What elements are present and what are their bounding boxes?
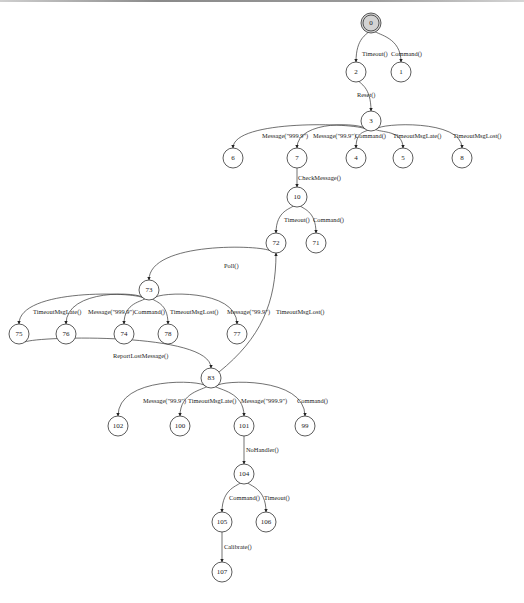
state-node-3: 3 [361,111,381,131]
state-label: 7 [295,154,299,162]
state-node-78: 78 [158,324,178,344]
state-label: 10 [294,193,302,201]
state-label: 101 [239,422,250,430]
edge-3-to-4: Command() [355,129,386,148]
edge-0-to-1: Command() [374,31,422,62]
state-label: 99 [302,422,310,430]
state-node-99: 99 [295,416,315,436]
state-label: 8 [460,154,464,162]
edge-7-to-10: CheckMessage() [297,168,341,187]
state-node-75: 75 [9,324,29,344]
edge-label: Command() [297,397,328,405]
edge-72-to-73: Poll() [149,247,270,280]
state-label: 107 [217,568,228,576]
edges-layer: Timeout()Command()Reset()Message("999.9"… [19,31,501,562]
state-label: 2 [354,68,358,76]
state-node-74: 74 [114,324,134,344]
edge-label: Message("999.9") [88,308,134,316]
state-node-77: 77 [227,324,247,344]
state-node-7: 7 [287,148,307,168]
state-node-76: 76 [56,324,76,344]
edge-label: Timeout() [284,216,310,224]
state-label: 74 [121,330,129,338]
edge-label: Command() [313,216,344,224]
state-label: 0 [369,19,373,27]
state-label: 105 [217,518,228,526]
edge-arrow [374,31,401,62]
edge-label: Message("99.9") [227,308,270,316]
edge-2-to-3: Reset() [357,80,375,111]
state-label: 75 [16,330,24,338]
state-label: 106 [261,518,272,526]
state-node-0: 0 [361,13,381,33]
state-node-106: 106 [256,512,276,532]
edge-label: TimeoutMsgLate() [33,308,81,316]
state-label: 71 [313,239,321,247]
state-label: 102 [113,422,124,430]
state-label: 76 [63,330,71,338]
state-node-2: 2 [346,62,366,82]
edge-label: Timeout() [362,50,388,58]
edge-label: TimeoutMsgLost() [170,308,218,316]
edge-label: TimeoutMsgLost() [453,132,501,140]
state-label: 6 [231,154,235,162]
edge-arrow [149,247,270,280]
state-label: 100 [175,422,186,430]
state-label: 72 [273,239,281,247]
state-label: 4 [354,154,358,162]
edge-label: CheckMessage() [298,174,341,182]
state-label: 78 [165,330,173,338]
edge-label: Reset() [357,91,375,99]
state-label: 1 [399,68,403,76]
state-label: 73 [146,286,154,294]
state-label: 83 [208,374,216,382]
edge-label: Command() [134,308,165,316]
state-label: 77 [234,330,242,338]
edge-label: Poll() [224,262,239,270]
edge-105-to-107: Calibrate() [222,532,252,562]
edge-label: Message("999.9") [262,132,308,140]
state-node-72: 72 [266,233,286,253]
edge-label: Message("99.9") [313,132,356,140]
edge-label: Message("99.9") [143,397,186,405]
edge-label: Command() [391,50,422,58]
state-node-73: 73 [139,280,159,300]
edge-label: ReportLostMessage() [113,352,168,360]
state-node-10: 10 [287,187,307,207]
edge-label: Calibrate() [224,543,252,551]
state-node-5: 5 [393,148,413,168]
edge-104-to-105: Command() [222,482,260,512]
edge-75-to-83: ReportLostMessage() [25,338,211,368]
state-node-105: 105 [212,512,232,532]
state-node-1: 1 [391,62,411,82]
edge-label: Command() [229,494,260,502]
edge-label: TimeoutMsgLate() [188,397,236,405]
edge-label: Message("999.9") [241,397,287,405]
edge-101-to-104: NoHandler() [244,436,279,464]
state-label: 5 [401,154,405,162]
edge-arrow [356,31,369,62]
state-node-71: 71 [306,233,326,253]
state-node-102: 102 [108,416,128,436]
state-graph: Timeout()Command()Reset()Message("999.9"… [0,0,524,603]
edge-label: TimeoutMsgLate() [393,132,441,140]
state-node-100: 100 [170,416,190,436]
state-node-101: 101 [234,416,254,436]
state-node-6: 6 [223,148,243,168]
edge-83-to-100: TimeoutMsgLate() [180,386,236,416]
state-node-8: 8 [452,148,472,168]
edge-label: TimeoutMsgLost() [276,308,324,316]
state-node-107: 107 [212,562,232,582]
state-label: 3 [369,117,373,125]
state-node-104: 104 [234,464,254,484]
state-label: 104 [239,470,250,478]
state-node-4: 4 [346,148,366,168]
edge-label: Command() [355,132,386,140]
edge-label: Timeout() [264,494,290,502]
state-node-83: 83 [201,368,221,388]
edge-label: NoHandler() [246,446,279,454]
